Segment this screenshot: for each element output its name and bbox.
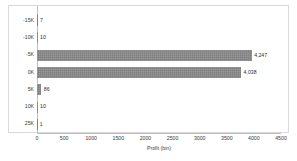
bar-value-label: 86 xyxy=(44,87,50,92)
x-tick-label: 3500 xyxy=(221,136,233,141)
x-tick-label: 0 xyxy=(36,136,39,141)
y-tick-label: -15K xyxy=(8,18,34,23)
x-tick-label: 2500 xyxy=(167,136,179,141)
x-tick-label: 4000 xyxy=(248,136,260,141)
x-tick-label: 500 xyxy=(60,136,69,141)
y-tick-label: -10K xyxy=(8,35,34,40)
y-tick-label: -5K xyxy=(8,53,34,58)
bar xyxy=(37,50,252,61)
x-axis-title: Profit (bin) xyxy=(37,146,281,151)
bar xyxy=(37,32,38,43)
x-tick-label: 1000 xyxy=(85,136,97,141)
bar-value-label: 10 xyxy=(40,104,46,109)
x-axis-line xyxy=(37,133,281,134)
bar-value-label: 7 xyxy=(40,18,43,23)
bar-chart-figure: -15K -10K -5K 0K 5K 10K 25K 7 10 4,247 4… xyxy=(0,0,297,161)
x-tick-label: 3000 xyxy=(194,136,206,141)
bar-rows: 7 10 4,247 4,038 86 10 xyxy=(37,12,281,133)
bar xyxy=(37,84,41,95)
bar-row: 4,038 xyxy=(37,64,281,81)
x-tick-label: 1500 xyxy=(113,136,125,141)
y-tick-label: 25K xyxy=(8,122,34,127)
y-axis-tick-labels: -15K -10K -5K 0K 5K 10K 25K xyxy=(4,12,34,133)
y-tick-label: 10K xyxy=(8,104,34,109)
y-tick-label: 5K xyxy=(8,87,34,92)
bar-value-label: 1 xyxy=(40,122,43,127)
bar-row: 4,247 xyxy=(37,47,281,64)
bar-row: 10 xyxy=(37,98,281,115)
bar-value-label: 4,038 xyxy=(244,70,257,75)
bar-value-label: 10 xyxy=(40,35,46,40)
bar xyxy=(37,102,38,113)
bar-row: 1 xyxy=(37,116,281,133)
x-tick-label: 4500 xyxy=(275,136,287,141)
x-tick-label: 2000 xyxy=(140,136,152,141)
plot-area: 7 10 4,247 4,038 86 10 xyxy=(37,12,281,133)
bar-value-label: 4,247 xyxy=(254,53,267,58)
bar-row: 86 xyxy=(37,81,281,98)
bar xyxy=(37,67,241,78)
bar-row: 7 xyxy=(37,12,281,29)
bar-row: 10 xyxy=(37,29,281,46)
y-tick-label: 0K xyxy=(8,70,34,75)
